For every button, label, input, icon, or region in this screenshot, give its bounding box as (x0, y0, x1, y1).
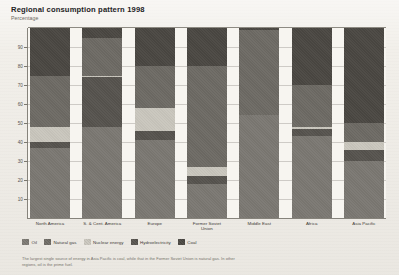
bar-segment[interactable] (239, 115, 279, 218)
x-axis-label: Middle East (239, 221, 279, 231)
bar-segment[interactable] (292, 85, 332, 127)
bar-segment[interactable] (135, 28, 175, 66)
y-axis-tick-label: 50 (8, 121, 23, 126)
legend-swatch-hydroelectricity (131, 239, 138, 245)
bar-segment[interactable] (187, 66, 227, 167)
legend-item[interactable]: Oil (22, 239, 37, 245)
bar-segment[interactable] (135, 108, 175, 131)
legend-label: Nuclear energy (93, 240, 123, 245)
x-axis-label: Europe (135, 221, 175, 231)
bar-segment[interactable] (344, 150, 384, 161)
x-axis-label: North America (30, 221, 70, 231)
x-axis-label: S. & Cent. America (82, 221, 122, 231)
y-axis-tick-label: 20 (8, 178, 23, 183)
bar-column[interactable] (135, 28, 175, 218)
bar-segment[interactable] (30, 28, 70, 76)
x-axis-label: Former Soviet Union (187, 221, 227, 231)
bar-segment[interactable] (239, 30, 279, 116)
chart-figure: Regional consumption pattern 1998 Percen… (0, 0, 399, 275)
bar-column[interactable] (187, 28, 227, 218)
x-axis-line (27, 218, 386, 219)
bar-segment[interactable] (187, 176, 227, 184)
y-axis-tick-label: 70 (8, 83, 23, 88)
y-axis-tick-label: 90 (8, 45, 23, 50)
y-axis-tick-label: 80 (8, 64, 23, 69)
legend-swatch-coal (178, 239, 185, 245)
bar-segment[interactable] (30, 148, 70, 218)
bar-column[interactable] (292, 28, 332, 218)
bar-segment[interactable] (82, 77, 122, 126)
bar-segment[interactable] (135, 66, 175, 108)
legend-swatch-natural-gas (44, 239, 51, 245)
bar-column[interactable] (82, 28, 122, 218)
x-axis-label: Africa (292, 221, 332, 231)
chart-subtitle: Percentage (11, 15, 39, 21)
chart-legend: OilNatural gasNuclear energyHydroelectri… (22, 239, 197, 245)
legend-item[interactable]: Natural gas (44, 239, 77, 245)
bar-segment[interactable] (135, 140, 175, 218)
bar-segment[interactable] (187, 28, 227, 66)
bar-segment[interactable] (292, 28, 332, 85)
bar-series-group (28, 28, 386, 218)
plot-area: 102030405060708090 (28, 28, 386, 218)
page-title: Regional consumption pattern 1998 (11, 5, 145, 14)
y-axis-tick-label: 60 (8, 102, 23, 107)
bar-segment[interactable] (30, 127, 70, 142)
y-axis-tick-label: 40 (8, 140, 23, 145)
legend-item[interactable]: Hydroelectricity (131, 239, 171, 245)
bar-segment[interactable] (292, 136, 332, 218)
bar-segment[interactable] (82, 38, 122, 76)
bar-segment[interactable] (30, 76, 70, 127)
bar-segment[interactable] (292, 129, 332, 137)
bar-segment[interactable] (344, 142, 384, 150)
y-axis-tick-label: 30 (8, 159, 23, 164)
x-axis-label: Asia Pacific (344, 221, 384, 231)
bar-column[interactable] (344, 28, 384, 218)
bar-segment[interactable] (344, 28, 384, 123)
legend-swatch-nuclear-energy (84, 239, 91, 245)
legend-label: Oil (32, 240, 38, 245)
y-axis-tick-label: 10 (8, 197, 23, 202)
legend-item[interactable]: Coal (178, 239, 197, 245)
legend-item[interactable]: Nuclear energy (84, 239, 124, 245)
bar-segment[interactable] (82, 28, 122, 38)
chart-footnote: The largest single source of energy in A… (22, 256, 237, 267)
x-axis-labels: North AmericaS. & Cent. AmericaEuropeFor… (28, 221, 386, 231)
bar-segment[interactable] (344, 123, 384, 142)
bar-column[interactable] (239, 28, 279, 218)
bar-segment[interactable] (135, 131, 175, 141)
legend-label: Natural gas (54, 240, 77, 245)
legend-swatch-oil (22, 239, 29, 245)
bar-segment[interactable] (187, 184, 227, 218)
legend-label: Hydroelectricity (140, 240, 171, 245)
bar-segment[interactable] (82, 127, 122, 218)
bar-segment[interactable] (187, 167, 227, 177)
legend-label: Coal (187, 240, 196, 245)
bar-segment[interactable] (344, 161, 384, 218)
bar-column[interactable] (30, 28, 70, 218)
